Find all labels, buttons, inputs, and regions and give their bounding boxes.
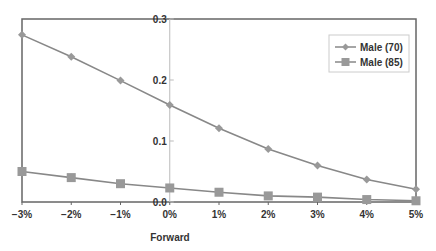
x-tick-label: 2%: [261, 209, 276, 220]
square-marker-icon: [18, 167, 27, 176]
square-marker-icon: [165, 183, 174, 192]
y-tick-label: 0.3: [153, 14, 167, 25]
diamond-marker-icon: [166, 101, 174, 109]
x-axis-ticks: −3%−2%−1%0%1%2%3%4%5%: [12, 202, 423, 220]
x-tick-label: 0%: [163, 209, 178, 220]
diamond-marker-icon: [314, 161, 322, 169]
legend: Male (70) Male (85): [329, 35, 409, 72]
x-tick-label: −2%: [61, 209, 81, 220]
square-marker-icon: [313, 193, 322, 202]
diamond-marker-icon: [18, 31, 26, 39]
square-marker-icon: [362, 195, 371, 204]
line-chart: 0.00.10.20.3 −3%−2%−1%0%1%2%3%4%5% Forwa…: [0, 0, 436, 251]
diamond-marker-icon: [264, 145, 272, 153]
legend-label: Male (70): [360, 42, 403, 53]
square-marker-icon: [67, 173, 76, 182]
square-marker-icon: [342, 58, 350, 66]
x-tick-label: 4%: [360, 209, 375, 220]
x-tick-label: 3%: [310, 209, 325, 220]
diamond-marker-icon: [67, 53, 75, 61]
diamond-marker-icon: [363, 175, 371, 183]
x-tick-label: 5%: [409, 209, 424, 220]
square-marker-icon: [116, 179, 125, 188]
square-marker-icon: [412, 196, 421, 205]
x-tick-label: 1%: [212, 209, 227, 220]
x-tick-label: −1%: [110, 209, 130, 220]
x-axis-title: Forward: [150, 232, 189, 243]
y-tick-label: 0.2: [153, 75, 167, 86]
square-marker-icon: [264, 191, 273, 200]
legend-label: Male (85): [360, 57, 403, 68]
diamond-marker-icon: [412, 185, 420, 193]
diamond-marker-icon: [215, 124, 223, 132]
y-tick-label: 0.1: [153, 136, 167, 147]
y-tick-label: 0.0: [153, 197, 167, 208]
square-marker-icon: [215, 188, 224, 197]
x-tick-label: −3%: [12, 209, 32, 220]
diamond-marker-icon: [117, 77, 125, 85]
series-male-85: [18, 167, 421, 205]
y-axis-ticks: 0.00.10.20.3: [153, 14, 174, 208]
